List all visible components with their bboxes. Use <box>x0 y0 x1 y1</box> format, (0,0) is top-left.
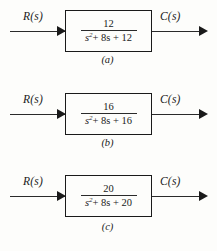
input-signal-label-c: R(s) <box>23 175 43 187</box>
numerator-a: 12 <box>97 19 120 31</box>
sub-caption-c: (c) <box>0 221 216 232</box>
block-diagram-figure: R(s) 12 s2+ 8s + 12 C(s) (a) R(s) 16 s2+… <box>0 0 217 251</box>
transfer-function-fraction-a: 12 s2+ 8s + 12 <box>81 19 137 44</box>
output-signal-line-b <box>152 114 202 115</box>
denominator-rest-b: + 8s + 16 <box>93 115 133 126</box>
denominator-rest-a: + 8s + 12 <box>93 32 133 43</box>
denominator-c: s2+ 8s + 20 <box>82 196 135 209</box>
block-diagram-a: R(s) 12 s2+ 8s + 12 C(s) (a) <box>0 0 217 84</box>
denominator-b: s2+ 8s + 16 <box>82 114 135 127</box>
output-signal-line-c <box>152 196 202 197</box>
transfer-function-block-a: 12 s2+ 8s + 12 <box>65 10 152 52</box>
denominator-a: s2+ 8s + 12 <box>82 31 135 44</box>
denominator-rest-c: + 8s + 20 <box>93 197 133 208</box>
output-signal-label-a: C(s) <box>160 10 181 22</box>
transfer-function-block-b: 16 s2+ 8s + 16 <box>65 93 152 135</box>
sub-caption-b: (b) <box>0 137 216 148</box>
numerator-b: 16 <box>97 102 120 114</box>
block-diagram-b: R(s) 16 s2+ 8s + 16 C(s) (b) <box>0 83 217 167</box>
sub-caption-a: (a) <box>0 54 216 65</box>
numerator-c: 20 <box>97 184 120 196</box>
output-arrow-icon-b <box>199 109 208 119</box>
transfer-function-fraction-c: 20 s2+ 8s + 20 <box>81 184 137 209</box>
transfer-function-block-c: 20 s2+ 8s + 20 <box>65 175 152 217</box>
input-signal-label-b: R(s) <box>23 93 43 105</box>
output-arrow-icon-a <box>199 26 208 36</box>
output-signal-line-a <box>152 31 202 32</box>
transfer-function-fraction-b: 16 s2+ 8s + 16 <box>81 102 137 127</box>
output-arrow-icon-c <box>199 191 208 201</box>
output-signal-label-c: C(s) <box>160 175 181 187</box>
output-signal-label-b: C(s) <box>160 93 181 105</box>
block-diagram-c: R(s) 20 s2+ 8s + 20 C(s) (c) <box>0 165 217 251</box>
input-signal-label-a: R(s) <box>23 10 43 22</box>
